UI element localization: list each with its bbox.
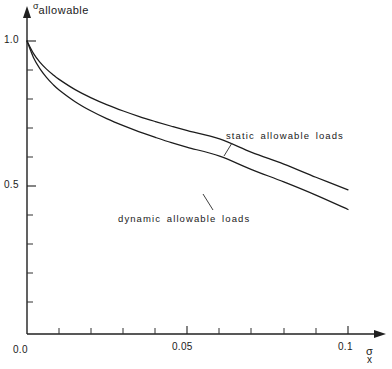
annotation-dynamic-allowable-loads: dynamic allowable loads [118,213,250,224]
y-axis-title: σallowable [33,1,89,16]
x-tick-label-0-0: 0.0 [13,344,28,355]
x-axis-title-subscript: x [366,355,373,364]
y-axis-ticks [27,41,36,302]
curve-dynamic-allowable-loads [27,41,348,209]
y-tick-label-1-0: 1.0 [4,34,19,45]
x-tick-label-0-1: 0.1 [338,341,353,352]
leader-line-static [224,143,232,156]
x-axis-ticks [59,326,348,334]
x-tick-label-0-05: 0.05 [172,341,193,352]
y-axis-arrow-icon [23,6,31,18]
chart-plot-area [0,0,392,369]
y-axis-title-subscript: allowable [39,4,89,16]
x-axis-title: σ x [366,347,373,364]
x-axis-arrow-icon [374,330,386,338]
chart-figure: σallowable σ x 1.0 0.5 0.0 0.05 0.1 stat… [0,0,392,369]
curve-static-allowable-loads [27,41,348,190]
leader-line-dynamic [203,194,213,210]
y-tick-label-0-5: 0.5 [4,179,19,190]
annotation-static-allowable-loads: static allowable loads [226,130,344,141]
